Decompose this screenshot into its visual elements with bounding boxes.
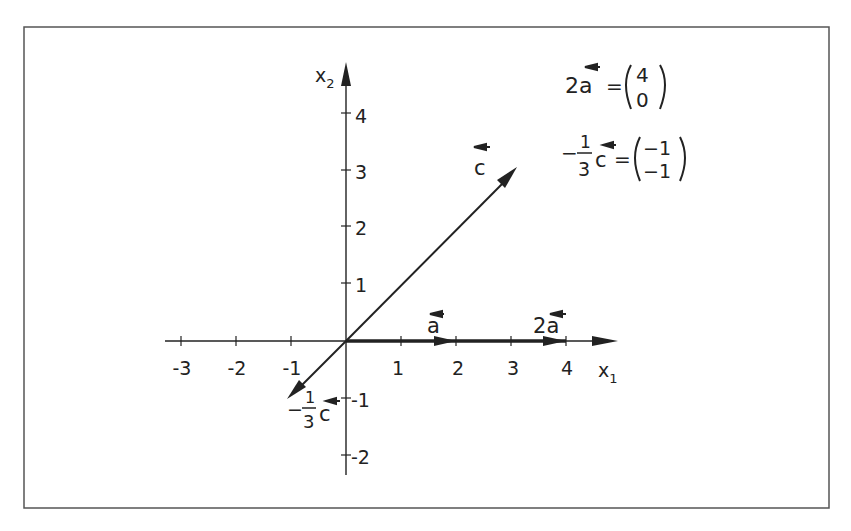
vector-arrow-icon [474, 144, 490, 150]
svg-text:−1: −1 [643, 137, 671, 159]
y-axis-label: x2 [315, 64, 335, 91]
label-2a-text: 2a [533, 314, 559, 338]
label-vector-neg-third-c: − 1 3 c [287, 388, 340, 432]
label-vector-a: a [427, 311, 444, 338]
equation-2a: 2a = 4 0 [565, 63, 665, 112]
y-tick-label: -2 [351, 446, 370, 468]
paren-left [635, 137, 640, 181]
x-tick-label: -3 [173, 357, 192, 379]
vector-diagram: -3 -2 -1 1 2 3 4 x1 4 3 2 1 -1 -2 x2 [0, 0, 851, 531]
svg-text:1: 1 [580, 132, 591, 152]
svg-text:−: − [287, 398, 303, 420]
svg-text:0: 0 [636, 88, 649, 112]
y-tick-label: 3 [355, 161, 367, 183]
x-tick-label: -2 [228, 357, 247, 379]
svg-text:a: a [427, 314, 440, 338]
y-tick-label: -1 [351, 389, 370, 411]
svg-text:=: = [606, 74, 623, 98]
label-vector-c: c [474, 144, 490, 180]
y-tick-label: 4 [355, 105, 367, 127]
x-tick-label: 2 [452, 357, 464, 379]
label-vector-2a: 2a [533, 311, 566, 338]
svg-text:c: c [595, 148, 607, 172]
svg-text:4: 4 [636, 63, 649, 87]
svg-text:1: 1 [305, 388, 315, 407]
x-tick-label: 4 [561, 357, 573, 379]
svg-text:c: c [319, 402, 331, 426]
vector-arrow-icon [585, 64, 600, 70]
vector-neg-third-c [296, 341, 346, 391]
svg-text:c: c [474, 156, 486, 180]
diagram-frame [24, 27, 829, 508]
svg-text:=: = [614, 147, 631, 171]
x-axis-label: x1 [598, 359, 618, 386]
y-tick-label: 2 [355, 217, 367, 239]
paren-right [680, 137, 685, 181]
x-tick-label: 1 [392, 357, 404, 379]
svg-text:3: 3 [578, 158, 590, 180]
y-tick-label: 1 [355, 274, 367, 296]
x-axis-arrow-icon [592, 336, 618, 346]
svg-text:2a: 2a [565, 73, 592, 98]
paren-right [660, 65, 665, 109]
x-tick-label: 3 [507, 357, 519, 379]
x-tick-label: -1 [283, 357, 302, 379]
svg-text:−1: −1 [643, 160, 671, 182]
svg-text:3: 3 [303, 411, 314, 432]
equation-neg-third-c: − 1 3 c = −1 −1 [561, 132, 685, 182]
svg-text:−: − [561, 141, 578, 165]
paren-left [626, 65, 631, 109]
y-axis-arrow-icon [341, 62, 351, 86]
